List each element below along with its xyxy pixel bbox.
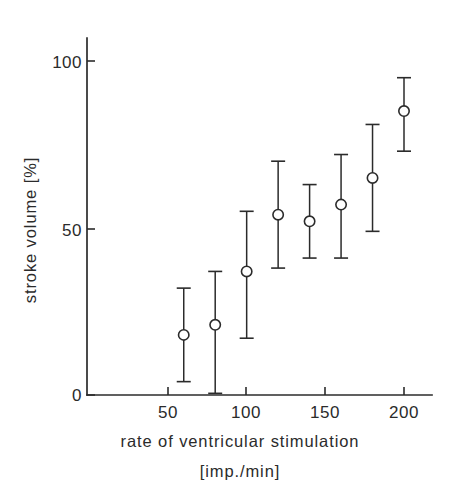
data-series-error-bars bbox=[177, 78, 411, 394]
x-tick-label-100: 100 bbox=[231, 403, 261, 422]
data-point-marker bbox=[273, 209, 283, 219]
data-point-marker bbox=[179, 330, 189, 340]
x-axis-title-line2: [imp./min] bbox=[200, 462, 281, 480]
scatter-plot-with-error-bars: 0 50 100 50 100 150 200 stroke volume [%… bbox=[0, 0, 449, 487]
data-point-group bbox=[334, 155, 348, 259]
x-tick-label-200: 200 bbox=[389, 403, 419, 422]
data-point-marker bbox=[210, 320, 220, 330]
x-axis-tick-labels: 50 100 150 200 bbox=[158, 403, 419, 422]
data-point-group bbox=[397, 78, 411, 151]
y-axis-tick-labels: 0 50 100 bbox=[52, 53, 82, 405]
x-axis-title-line1: rate of ventricular stimulation bbox=[121, 432, 360, 450]
data-point-group bbox=[271, 161, 285, 268]
x-axis-ticks bbox=[168, 387, 404, 395]
data-point-marker bbox=[241, 266, 251, 276]
data-point-marker bbox=[336, 199, 346, 209]
data-point-group bbox=[208, 271, 222, 393]
data-point-marker bbox=[367, 173, 377, 183]
figure-panel: 0 50 100 50 100 150 200 stroke volume [%… bbox=[0, 0, 449, 487]
y-tick-label-0: 0 bbox=[72, 386, 82, 405]
y-axis-ticks bbox=[87, 61, 95, 395]
data-point-group bbox=[366, 124, 380, 231]
data-point-group bbox=[303, 185, 317, 258]
y-tick-label-100: 100 bbox=[52, 53, 82, 72]
x-tick-label-150: 150 bbox=[310, 403, 340, 422]
data-point-group bbox=[177, 288, 191, 382]
y-axis-title: stroke volume [%] bbox=[21, 157, 39, 303]
data-point-group bbox=[240, 211, 254, 338]
data-point-marker bbox=[304, 216, 314, 226]
data-point-marker bbox=[399, 106, 409, 116]
y-tick-label-50: 50 bbox=[62, 221, 82, 240]
x-tick-label-50: 50 bbox=[158, 403, 178, 422]
